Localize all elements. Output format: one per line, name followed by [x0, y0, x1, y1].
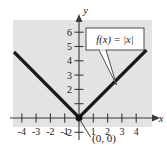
- x-tick-label--4: -4: [18, 126, 26, 137]
- x-tick-label--2: -2: [46, 126, 54, 137]
- y-tick-label-2: 2: [67, 84, 72, 95]
- x-tick-label-3: 3: [119, 126, 124, 137]
- x-tick-label--3: -3: [32, 126, 40, 137]
- x-tick-labels: -4 -3 -2 -1 1 2 3 4: [18, 126, 139, 137]
- origin-point-marker: [76, 115, 83, 122]
- y-tick-label--2: -2: [64, 127, 72, 138]
- x-tick-label-4: 4: [134, 126, 139, 137]
- x-axis-label: x: [158, 113, 164, 124]
- y-axis-label: y: [82, 5, 88, 16]
- origin-point-label: (0, 0): [92, 132, 116, 145]
- y-axis-arrowhead: [76, 14, 83, 22]
- graph-svg: x y -4 -3 -2 -1 1 2 3 4 6 5 4 3 2 -2 f(x…: [0, 0, 167, 159]
- absolute-value-graph-figure: x y -4 -3 -2 -1 1 2 3 4 6 5 4 3 2 -2 f(x…: [0, 0, 167, 159]
- y-tick-label-5: 5: [67, 41, 72, 52]
- y-tick-label-6: 6: [67, 27, 72, 38]
- y-tick-label-3: 3: [67, 70, 72, 81]
- function-label-text: f(x) = |x|: [96, 34, 133, 46]
- y-tick-label-4: 4: [67, 55, 72, 66]
